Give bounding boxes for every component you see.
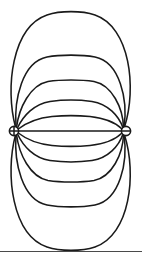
field-line-upper-1 [18, 116, 122, 129]
field-line-upper-2 [18, 100, 124, 128]
field-lines-group [11, 12, 130, 251]
dipole-field-canvas [0, 0, 142, 261]
dipole-field-figure: Electric dipole field lines [0, 0, 142, 261]
footer-divider [0, 251, 142, 252]
field-line-lower-2 [18, 134, 124, 162]
negative-charge-marker [121, 126, 130, 135]
positive-charge-marker [9, 126, 18, 135]
field-line-lower-1 [18, 133, 122, 146]
